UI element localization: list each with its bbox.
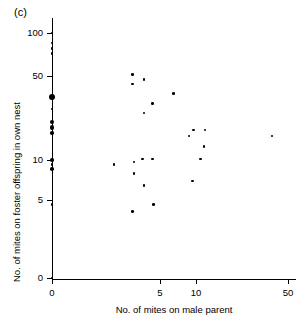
data-point — [151, 102, 154, 105]
data-point — [191, 180, 194, 183]
x-tick-label: 0 — [37, 287, 67, 298]
data-point — [204, 129, 207, 132]
data-point — [172, 92, 175, 95]
data-point — [131, 73, 134, 76]
data-point — [50, 125, 55, 130]
x-tick-mark — [196, 279, 197, 284]
data-point — [188, 135, 191, 138]
y-tick-mark — [47, 200, 52, 201]
data-point — [51, 52, 54, 55]
data-point — [50, 131, 53, 134]
data-point — [51, 163, 54, 166]
data-point — [131, 210, 134, 213]
y-tick-label: 50 — [9, 70, 43, 81]
data-point — [131, 83, 134, 86]
x-tick-mark — [288, 279, 289, 284]
data-point — [152, 203, 155, 206]
data-point — [133, 172, 136, 175]
y-tick-mark — [47, 76, 52, 77]
data-point — [192, 129, 195, 132]
data-point — [133, 161, 136, 164]
x-axis-title: No. of mites on male parent — [52, 304, 296, 315]
data-point — [113, 163, 116, 166]
data-point — [49, 94, 55, 100]
x-tick-label: 50 — [273, 287, 303, 298]
y-axis-title: No. of mites on foster offspring in own … — [11, 102, 22, 282]
x-axis-line — [52, 279, 296, 280]
x-tick-label: 5 — [145, 287, 175, 298]
data-point — [50, 158, 53, 161]
data-point — [199, 158, 202, 161]
data-point — [143, 112, 146, 115]
data-point — [203, 145, 206, 148]
plot-area: 051050100 051050 — [0, 0, 307, 324]
data-point — [50, 120, 54, 124]
data-point — [141, 158, 144, 161]
x-tick-mark — [160, 279, 161, 284]
x-tick-mark — [52, 279, 53, 284]
y-tick-label: 100 — [9, 27, 43, 38]
data-point — [151, 158, 154, 161]
figure-panel-c: (c) 051050100 051050 No. of mites on mal… — [0, 0, 307, 324]
data-point — [271, 135, 274, 138]
data-point — [143, 184, 146, 187]
data-point — [143, 78, 146, 81]
y-axis-line — [52, 18, 53, 279]
x-tick-label: 10 — [181, 287, 211, 298]
data-point — [50, 167, 53, 170]
